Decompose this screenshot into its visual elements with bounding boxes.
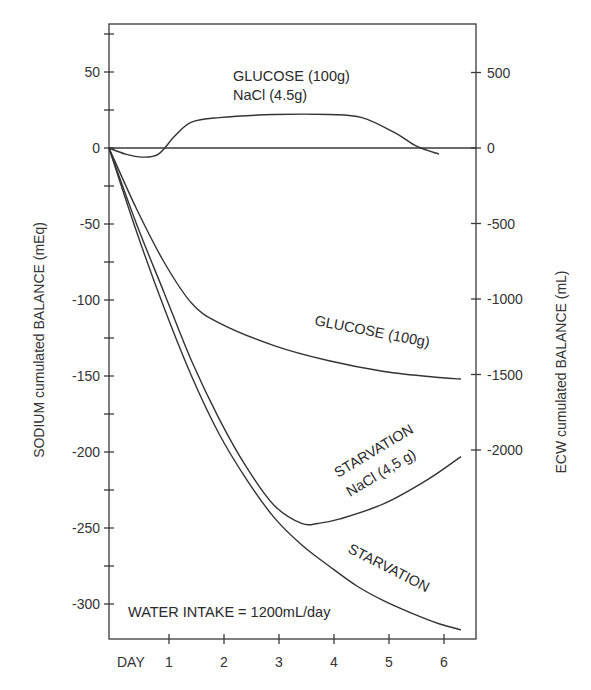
left-tick-label: -300	[72, 596, 100, 612]
left-tick-label: -250	[72, 520, 100, 536]
right-tick-label: -1000	[487, 291, 523, 307]
label-glucose: GLUCOSE (100g)	[313, 312, 431, 350]
label-glucose-nacl-line1: GLUCOSE (100g)	[233, 68, 350, 84]
series-curve-3	[109, 148, 461, 630]
right-tick-label: -500	[487, 216, 515, 232]
left-tick-label: 50	[84, 64, 100, 80]
x-tick-label: 5	[385, 654, 393, 670]
curves	[109, 114, 461, 630]
y-axis-title: SODIUM cumulated BALANCE (mEq)	[31, 222, 47, 458]
label-glucose-nacl-line2: NaCl (4.5g)	[233, 87, 307, 103]
x-tick-label: 6	[440, 654, 448, 670]
right-tick-label: -2000	[487, 442, 523, 458]
left-tick-label: -50	[80, 216, 100, 232]
right-tick-label: 500	[487, 65, 511, 81]
x-tick-label: 2	[220, 654, 228, 670]
left-tick-label: 0	[92, 140, 100, 156]
left-axis-ticks: 500-50-100-150-200-250-300	[72, 34, 114, 612]
left-tick-label: -150	[72, 368, 100, 384]
left-tick-label: -200	[72, 444, 100, 460]
chart: 500-50-100-150-200-250-300 5000-500-1000…	[0, 0, 591, 690]
right-axis-ticks: 5000-500-1000-1500-2000	[471, 65, 523, 459]
x-tick-label: 4	[330, 654, 338, 670]
x-axis-title: DAY	[117, 654, 145, 670]
right-tick-label: -1500	[487, 367, 523, 383]
x-tick-label: 3	[275, 654, 283, 670]
left-tick-label: -100	[72, 292, 100, 308]
water-intake-annotation: WATER INTAKE = 1200mL/day	[128, 604, 331, 620]
series-curve-0	[109, 114, 439, 157]
x-tick-label: 1	[165, 654, 173, 670]
plot-frame	[109, 24, 476, 639]
y2-axis-title: ECW cumulated BALANCE (mL)	[553, 270, 569, 473]
right-tick-label: 0	[487, 140, 495, 156]
